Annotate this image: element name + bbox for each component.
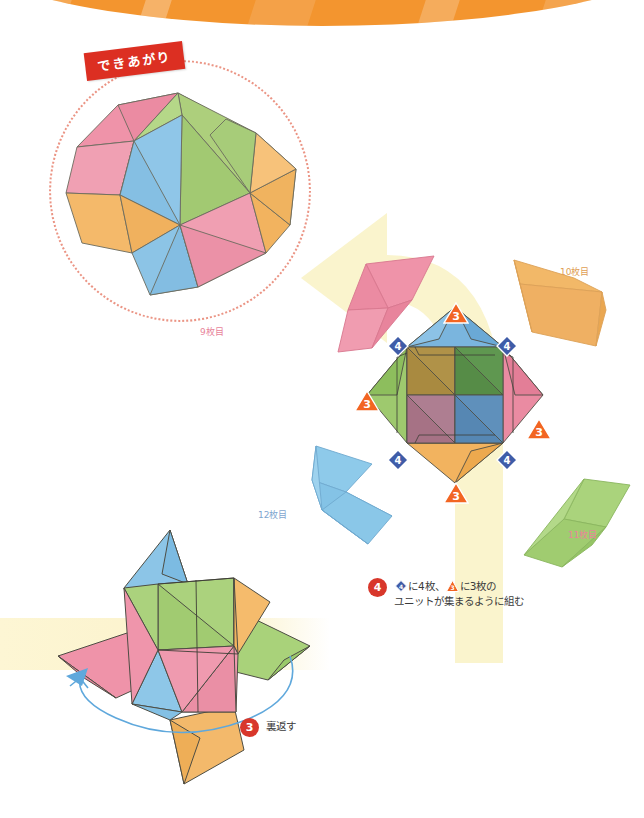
step-4-text-middle: に3枚の bbox=[460, 580, 497, 592]
finished-polyhedron bbox=[60, 75, 310, 310]
svg-text:3: 3 bbox=[363, 398, 371, 411]
svg-text:3: 3 bbox=[452, 490, 460, 503]
triangle-marker-icon: 3 bbox=[446, 580, 459, 592]
origami-instruction-page: できあがり bbox=[0, 0, 644, 818]
step-4-text-line2: ユニットが集まるように組む bbox=[394, 595, 524, 607]
step-4-text-before: に4枚、 bbox=[408, 580, 445, 592]
unit-label-9: 9枚目 bbox=[200, 325, 224, 338]
step-3-text: 裏返す bbox=[266, 718, 296, 734]
diamond-marker-4-bottom-right: 4 bbox=[496, 449, 518, 471]
step-3-callout: 3 裏返す bbox=[240, 718, 296, 737]
triangle-marker-3-left: 3 bbox=[354, 390, 380, 412]
triangle-marker-3-bottom: 3 bbox=[443, 482, 469, 504]
svg-text:4: 4 bbox=[504, 455, 511, 466]
step-3-number: 3 bbox=[240, 718, 259, 737]
triangle-marker-3-top: 3 bbox=[443, 302, 469, 324]
diamond-marker-icon: 4 bbox=[395, 580, 407, 592]
svg-text:4: 4 bbox=[399, 583, 403, 590]
unit-piece-9 bbox=[330, 252, 440, 357]
unit-label-11: 11枚目 bbox=[568, 528, 597, 541]
svg-text:3: 3 bbox=[452, 310, 460, 323]
triangle-marker-3-right: 3 bbox=[526, 418, 552, 440]
step-4-text: 4 に4枚、 3 に3枚の ユニットが集まるように組む bbox=[394, 578, 524, 609]
unit-label-12: 12枚目 bbox=[258, 508, 287, 521]
svg-text:3: 3 bbox=[535, 426, 543, 439]
step-4-number: 4 bbox=[368, 578, 387, 597]
step3-diagram bbox=[58, 528, 338, 786]
step-4-callout: 4 4 に4枚、 3 に3枚の ユニットが集まるように組む bbox=[368, 578, 524, 609]
unit-label-10: 10枚目 bbox=[560, 265, 589, 278]
svg-text:3: 3 bbox=[450, 584, 454, 591]
top-decorative-band bbox=[0, 0, 644, 26]
